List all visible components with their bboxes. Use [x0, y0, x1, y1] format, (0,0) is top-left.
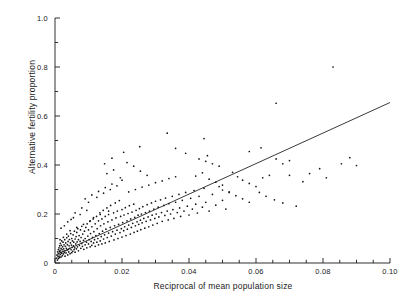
regression-line: [57, 103, 390, 255]
svg-text:0: 0: [44, 259, 48, 268]
svg-text:0.8: 0.8: [37, 63, 48, 72]
svg-text:0.02: 0.02: [114, 267, 129, 276]
svg-text:0.4: 0.4: [37, 161, 48, 170]
svg-text:0.08: 0.08: [315, 267, 330, 276]
axes: [55, 18, 390, 263]
x-axis-label: Reciprocal of mean population size: [55, 281, 391, 291]
svg-text:0.2: 0.2: [37, 210, 48, 219]
tick-labels: 00.020.040.060.080.1000.20.40.60.81.0: [37, 14, 398, 276]
plot-canvas: 00.020.040.060.080.1000.20.40.60.81.0: [0, 0, 419, 300]
data-points: [55, 66, 357, 261]
scatter-plot-figure: 00.020.040.060.080.1000.20.40.60.81.0 Al…: [0, 0, 419, 300]
svg-text:0.6: 0.6: [37, 112, 48, 121]
svg-text:0: 0: [53, 267, 57, 276]
svg-text:1.0: 1.0: [37, 14, 48, 23]
svg-text:0.04: 0.04: [181, 267, 196, 276]
svg-text:0.10: 0.10: [382, 267, 397, 276]
svg-text:0.06: 0.06: [248, 267, 263, 276]
tick-marks: [55, 18, 390, 263]
y-axis-label: Alternative fertility proportion: [27, 22, 37, 212]
